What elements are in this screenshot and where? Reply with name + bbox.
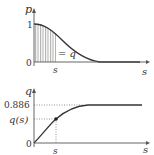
y-tick-asymptote: 0.886 xyxy=(4,100,30,110)
bottom-y-tick-zero: 0 xyxy=(26,139,32,149)
point-q-of-s xyxy=(54,117,58,121)
bottom-plot: q 0.886 q(s) 0 s s xyxy=(4,85,150,155)
top-x-axis-label: s xyxy=(142,66,147,77)
top-x-tick-s: s xyxy=(53,65,58,75)
top-y-axis-label: p xyxy=(25,3,32,16)
bottom-y-arrow-icon xyxy=(32,88,36,93)
bottom-y-axis-label: q xyxy=(25,85,32,98)
area-annotation: = q xyxy=(58,48,76,59)
cumulative-curve-q xyxy=(34,105,142,143)
top-y-tick-one: 1 xyxy=(27,20,33,30)
top-y-arrow-icon xyxy=(32,8,36,13)
bottom-x-axis-label: s xyxy=(143,144,148,155)
diagram-canvas: p 1 0 s s = q q 0.886 q(s) 0 s s xyxy=(0,0,154,155)
top-x-arrow-icon xyxy=(146,60,150,64)
y-tick-q-of-s: q(s) xyxy=(9,114,28,125)
bottom-x-tick-s: s xyxy=(53,146,58,155)
top-y-tick-zero: 0 xyxy=(26,58,32,68)
shaded-area-q xyxy=(34,24,56,62)
top-plot: p 1 0 s s = q xyxy=(25,3,150,77)
